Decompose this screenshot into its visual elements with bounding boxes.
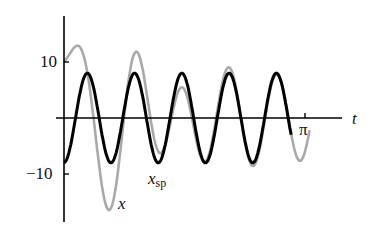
y-tick-label-neg10: −10	[26, 165, 53, 182]
x-tick-label-pi: π	[299, 121, 308, 138]
series-label-xsp-sub: sp	[156, 176, 167, 190]
y-tick-label-10: 10	[40, 53, 57, 70]
x-axis-label: t	[352, 110, 357, 127]
series-label-xsp-main: x	[148, 169, 156, 188]
series-label-xsp: xsp	[148, 170, 166, 189]
series-label-x: x	[118, 195, 126, 212]
chart-canvas	[0, 0, 373, 225]
